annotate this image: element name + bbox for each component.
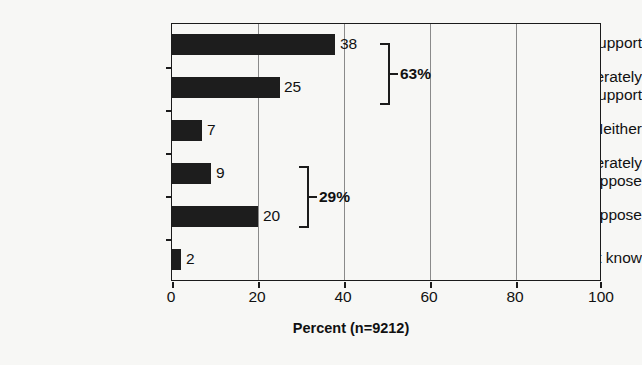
annotation-label-29: 29% xyxy=(319,188,350,206)
gridline-80 xyxy=(516,24,517,280)
bar-strongly-oppose xyxy=(172,206,258,227)
x-tick-label-100: 100 xyxy=(571,288,631,306)
gridline-20 xyxy=(258,24,259,280)
bar-value-dont-know: 2 xyxy=(186,248,195,269)
x-axis-title: Percent (n=9212) xyxy=(0,320,642,336)
bar-value-neither: 7 xyxy=(207,119,216,140)
x-tick-label-80: 80 xyxy=(485,288,545,306)
bar-value-moderately-oppose: 9 xyxy=(216,162,225,183)
y-tick xyxy=(166,153,172,155)
bar-moderately-oppose xyxy=(172,163,211,184)
x-tick-label-20: 20 xyxy=(227,288,287,306)
bar-value-strongly-oppose: 20 xyxy=(263,205,280,226)
y-tick xyxy=(166,196,172,198)
bracket-stem xyxy=(390,73,398,75)
y-tick xyxy=(166,110,172,112)
bar-value-strongly-support: 38 xyxy=(340,33,357,54)
plot-area: 38 25 7 9 20 2 xyxy=(171,23,601,281)
bar-neither xyxy=(172,120,202,141)
x-tick-label-60: 60 xyxy=(399,288,459,306)
bar-chart: Strongly support Moderately support Neit… xyxy=(0,0,642,365)
bracket-stem xyxy=(309,196,317,198)
bracket-bottom-arm xyxy=(299,226,309,228)
bar-value-moderately-support: 25 xyxy=(284,76,301,97)
bar-dont-know xyxy=(172,249,181,270)
gridline-40 xyxy=(344,24,345,280)
bar-strongly-support xyxy=(172,34,335,55)
gridline-60 xyxy=(430,24,431,280)
y-tick xyxy=(166,67,172,69)
annotation-label-63: 63% xyxy=(400,65,431,83)
bar-moderately-support xyxy=(172,77,280,98)
bracket-bottom-arm xyxy=(380,103,390,105)
x-tick-label-40: 40 xyxy=(313,288,373,306)
y-tick xyxy=(166,239,172,241)
x-tick-label-0: 0 xyxy=(141,288,201,306)
